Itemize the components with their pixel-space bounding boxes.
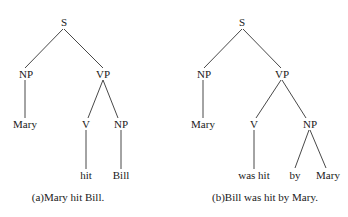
edge-s-vp-a — [64, 29, 103, 68]
edge-s-vp-b — [243, 29, 281, 68]
node-obj-np: NP — [303, 118, 317, 130]
caption-a: (a)Mary hit Bill. — [32, 191, 104, 203]
edge-np-by-b — [295, 130, 309, 168]
node-vp: VP — [96, 68, 110, 80]
edge-vp-v-a — [88, 80, 103, 118]
edge-vp-np-b — [282, 80, 306, 118]
caption-b: (b)Bill was hit by Mary. — [212, 191, 318, 203]
node-vp: VP — [275, 68, 289, 80]
leaf-was-hit: was hit — [238, 169, 269, 181]
node-v: V — [250, 118, 258, 130]
leaf-by: by — [290, 169, 301, 181]
node-obj-np: NP — [114, 118, 128, 130]
leaf-bill: Bill — [113, 169, 130, 181]
node-s: S — [61, 16, 67, 28]
leaf-mary: Mary — [13, 118, 37, 130]
edge-s-np-b — [204, 29, 242, 68]
node-v: V — [82, 118, 90, 130]
edge-vp-np-a — [103, 80, 118, 118]
edge-vp-v-b — [256, 80, 281, 118]
edge-s-np-a — [25, 29, 63, 68]
leaf-mary: Mary — [191, 118, 215, 130]
node-np: NP — [19, 68, 33, 80]
node-s: S — [239, 16, 245, 28]
leaf-mary-agent: Mary — [316, 169, 340, 181]
tree-edges — [0, 0, 348, 217]
leaf-hit: hit — [80, 169, 92, 181]
edge-np-mary2-b — [310, 130, 326, 168]
node-np: NP — [197, 68, 211, 80]
